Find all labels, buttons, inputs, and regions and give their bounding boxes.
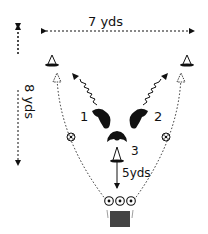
balls-row-icon (105, 197, 136, 206)
player-1-label: 1 (80, 110, 88, 123)
goal-icon (107, 210, 133, 227)
ball-right-icon (162, 133, 170, 141)
cone-left-icon (45, 55, 59, 67)
width-label: 7 yds (88, 15, 123, 28)
drill-diagram: 7 yds 8 yds 1 2 3 5yds (0, 0, 208, 234)
ball-left-icon (67, 133, 75, 141)
run-path-player-2 (143, 73, 168, 105)
player-1-icon (92, 109, 111, 129)
player-3-icon (107, 131, 127, 142)
run-path-player-1 (72, 73, 97, 105)
dribble-path-right (134, 73, 185, 200)
dribble-path-left (53, 73, 106, 200)
player-2-label: 2 (154, 110, 162, 123)
height-label: 8 yds (23, 84, 36, 119)
player-2-icon (130, 109, 149, 129)
cone-center-icon (110, 147, 124, 163)
height-dimension-arrow (15, 24, 21, 165)
distance-label: 5yds (122, 167, 151, 179)
cone-right-icon (180, 55, 194, 67)
player-3-label: 3 (131, 145, 139, 157)
